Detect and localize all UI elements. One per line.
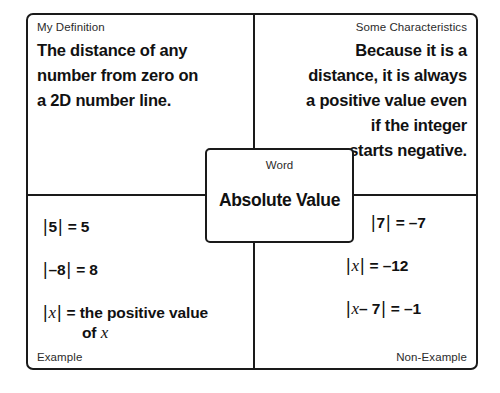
word-box-kicker: Word [207, 159, 352, 171]
abs-operand: 5 [48, 218, 57, 235]
example-equation-3: |x| = the positive valueof x [42, 302, 208, 343]
result-value: the positive value [80, 304, 208, 321]
non-example-equation-list: |7| = –7 |x| = –12 |x– 7| = –1 [345, 212, 426, 319]
example-equation-1: |5| = 5 [42, 216, 208, 237]
center-word-box: Word Absolute Value [205, 148, 354, 243]
word-box-term: Absolute Value [207, 190, 352, 211]
abs-operand: –8 [48, 261, 65, 278]
definition-line-2: number from zero on [37, 63, 247, 88]
quadrant-label-my-definition: My Definition [37, 21, 105, 33]
non-example-equation-1: |7| = –7 [345, 212, 426, 233]
characteristics-line-3: a positive value even [259, 88, 467, 113]
characteristics-line-1: Because it is a [259, 38, 467, 63]
abs-operand-variable: x [351, 256, 358, 275]
equals-sign: = [391, 300, 400, 317]
characteristics-line-4: if the integer [259, 113, 467, 138]
result-continuation-variable: x [101, 323, 108, 342]
definition-line-1: The distance of any [37, 38, 247, 63]
quadrant-label-example: Example [37, 351, 82, 363]
equals-sign: = [67, 304, 76, 321]
definition-text: The distance of any number from zero on … [37, 38, 247, 113]
result-value: 8 [89, 261, 98, 278]
characteristics-line-2: distance, it is always [259, 63, 467, 88]
result-continuation-prefix: of [82, 324, 96, 341]
example-equation-3-continuation: of x [42, 323, 208, 343]
abs-operand-variable: x [351, 299, 358, 318]
equals-sign: = [68, 218, 77, 235]
example-equation-2: |–8| = 8 [42, 259, 208, 280]
result-value: 5 [81, 218, 90, 235]
result-value: –1 [404, 300, 421, 317]
result-value: –7 [409, 214, 426, 231]
equals-sign: = [396, 214, 405, 231]
non-example-equation-3: |x– 7| = –1 [345, 298, 426, 319]
quadrant-label-some-characteristics: Some Characteristics [356, 21, 467, 33]
example-equation-list: |5| = 5 |–8| = 8 |x| = the positive valu… [42, 216, 208, 343]
equals-sign: = [76, 261, 85, 278]
definition-line-3: a 2D number line. [37, 88, 247, 113]
abs-operand: 7 [376, 214, 385, 231]
non-example-equation-2: |x| = –12 [345, 255, 426, 276]
frayer-model-diagram: My Definition The distance of any number… [26, 13, 478, 370]
result-value: –12 [383, 257, 409, 274]
quadrant-label-non-example: Non-Example [396, 351, 467, 363]
abs-operand-variable: x [48, 303, 55, 322]
equals-sign: = [370, 257, 379, 274]
abs-operand-term: – 7 [359, 300, 380, 317]
characteristics-text: Because it is a distance, it is always a… [259, 38, 467, 163]
